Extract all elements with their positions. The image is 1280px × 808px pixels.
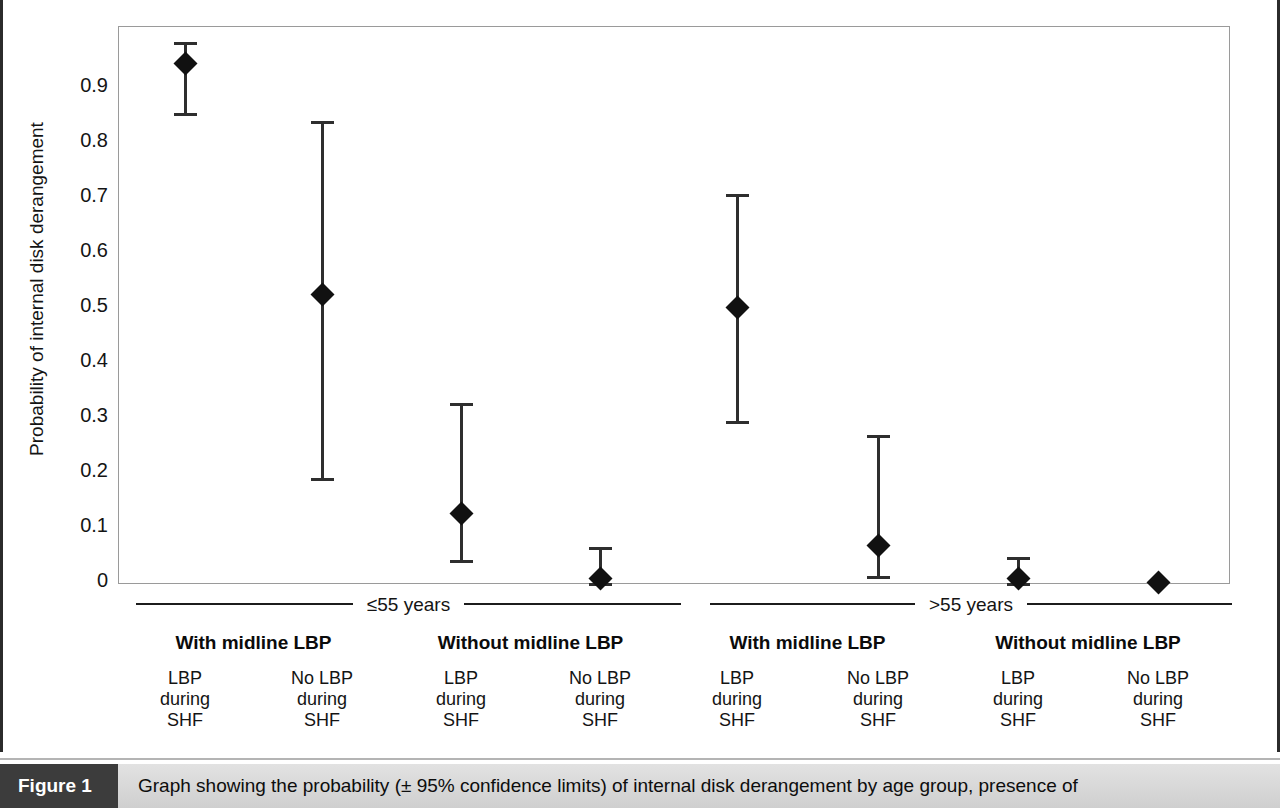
y-tick-label: 0.7	[48, 184, 108, 207]
x-tick-caption-line: SHF	[803, 710, 953, 731]
caption-divider	[0, 758, 1280, 760]
age-group-band: >55 years	[710, 594, 1232, 614]
x-tick-caption-line: LBP	[662, 668, 812, 689]
x-tick-caption-line: LBP	[943, 668, 1093, 689]
x-tick-caption-line: SHF	[662, 710, 812, 731]
x-tick-caption-line: LBP	[386, 668, 536, 689]
band-rule-left	[136, 603, 353, 605]
x-tick-caption: LBPduringSHF	[943, 668, 1093, 731]
band-rule-right	[1027, 603, 1232, 605]
figure-number-tag: Figure 1	[0, 764, 118, 808]
subgroup-label: With midline LBP	[648, 632, 968, 654]
figure-caption-bar: Figure 1 Graph showing the probability (…	[0, 764, 1280, 808]
x-tick-caption: No LBPduringSHF	[803, 668, 953, 731]
subgroup-label: Without midline LBP	[371, 632, 691, 654]
age-group-band: ≤55 years	[136, 594, 681, 614]
x-tick-caption: LBPduringSHF	[662, 668, 812, 731]
y-tick-label: 0.4	[48, 349, 108, 372]
x-tick-caption-line: No LBP	[1083, 668, 1233, 689]
x-tick-caption: No LBPduringSHF	[1083, 668, 1233, 731]
x-tick-caption-line: during	[386, 689, 536, 710]
x-tick-caption-line: No LBP	[525, 668, 675, 689]
y-tick-label: 0.9	[48, 74, 108, 97]
x-tick-caption-line: during	[943, 689, 1093, 710]
x-tick-caption-line: SHF	[1083, 710, 1233, 731]
band-rule-left	[710, 603, 915, 605]
x-tick-caption-line: LBP	[110, 668, 260, 689]
y-tick-label: 0.6	[48, 239, 108, 262]
subgroup-label: With midline LBP	[94, 632, 414, 654]
x-tick-caption: LBPduringSHF	[386, 668, 536, 731]
y-tick-label: 0.5	[48, 294, 108, 317]
subgroup-label: Without midline LBP	[928, 632, 1248, 654]
y-axis-title: Probability of internal disk derangement	[26, 9, 48, 569]
x-tick-caption-line: No LBP	[803, 668, 953, 689]
x-tick-caption-line: SHF	[247, 710, 397, 731]
x-tick-caption-line: during	[1083, 689, 1233, 710]
x-tick-caption-line: during	[803, 689, 953, 710]
x-tick-caption: LBPduringSHF	[110, 668, 260, 731]
x-tick-caption-line: during	[247, 689, 397, 710]
x-tick-caption-line: No LBP	[247, 668, 397, 689]
x-tick-caption-line: SHF	[525, 710, 675, 731]
x-tick-caption-line: SHF	[386, 710, 536, 731]
x-tick-caption-line: during	[525, 689, 675, 710]
band-rule-right	[464, 603, 681, 605]
x-tick-caption: No LBPduringSHF	[525, 668, 675, 731]
y-tick-label: 0.3	[48, 404, 108, 427]
y-tick-label: 0.2	[48, 459, 108, 482]
y-tick-label: 0.8	[48, 129, 108, 152]
age-group-label: ≤55 years	[353, 595, 464, 614]
figure-graph: Probability of internal disk derangement…	[0, 0, 1280, 752]
plot-area	[118, 26, 1230, 584]
age-group-label: >55 years	[915, 595, 1027, 614]
x-tick-caption-line: during	[110, 689, 260, 710]
x-tick-caption-line: SHF	[943, 710, 1093, 731]
y-tick-label: 0	[48, 569, 108, 592]
x-tick-caption-line: SHF	[110, 710, 260, 731]
x-tick-caption: No LBPduringSHF	[247, 668, 397, 731]
figure-caption-text: Graph showing the probability (± 95% con…	[118, 764, 1280, 808]
y-tick-label: 0.1	[48, 514, 108, 537]
x-tick-caption-line: during	[662, 689, 812, 710]
